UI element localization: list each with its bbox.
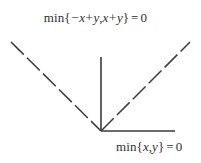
top-value-zero: 0	[141, 10, 148, 25]
bottom-min-operator: min	[116, 139, 137, 154]
top-equals-sign: =	[131, 10, 139, 25]
bottom-equals-sign: =	[166, 139, 174, 154]
top-minus-sign: −	[71, 10, 79, 25]
figure-container: min{−x+y,x+y}=0 min{x,y}=0	[0, 0, 201, 163]
top-close-brace: }	[123, 10, 129, 25]
bottom-equation-label: min{x,y}=0	[116, 140, 182, 153]
left-dashed-ray	[11, 42, 101, 131]
top-equation-label: min{−x+y,x+y}=0	[0, 11, 201, 24]
right-dashed-ray	[101, 42, 190, 131]
bottom-value-zero: 0	[176, 139, 183, 154]
bottom-close-brace: }	[158, 139, 164, 154]
top-min-operator: min	[44, 10, 65, 25]
top-open-brace: {	[64, 10, 70, 25]
top-plus-sign-second: +	[108, 10, 116, 25]
